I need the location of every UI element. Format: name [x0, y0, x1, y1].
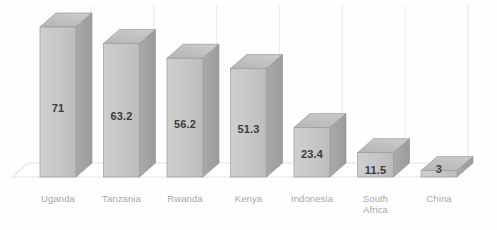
bar-column — [167, 44, 219, 177]
bar-value-label: 71 — [34, 102, 82, 114]
category-label-line: Africa — [344, 204, 408, 215]
category-label-line: Indonesia — [280, 193, 344, 204]
bar-chart-figure: 311.523.451.356.263.271 ChinaSouthAfrica… — [0, 0, 497, 230]
category-label-tanzania: Tanzania — [90, 193, 154, 204]
bar-value-label: 3 — [415, 163, 463, 175]
category-label-line: Kenya — [217, 193, 281, 204]
bar-value-label: 51.3 — [225, 123, 273, 135]
bar-value-label: 23.4 — [288, 148, 336, 160]
category-label-line: China — [407, 193, 471, 204]
bar-column — [231, 55, 283, 177]
category-label-uganda: Uganda — [26, 193, 90, 204]
chart-bars — [40, 13, 473, 177]
category-label-line: Tanzania — [90, 193, 154, 204]
category-label-china: China — [407, 193, 471, 204]
bar-column — [104, 29, 156, 177]
category-label-south-africa: SouthAfrica — [344, 193, 408, 215]
bar-value-label: 56.2 — [161, 118, 209, 130]
category-label-rwanda: Rwanda — [153, 193, 217, 204]
bar-value-label: 63.2 — [98, 110, 146, 122]
bar-value-label: 11.5 — [352, 164, 400, 176]
bar-column — [40, 13, 92, 177]
category-label-kenya: Kenya — [217, 193, 281, 204]
bar-column — [294, 114, 346, 177]
category-label-line: Uganda — [26, 193, 90, 204]
category-label-line: South — [344, 193, 408, 204]
category-label-line: Rwanda — [153, 193, 217, 204]
category-label-indonesia: Indonesia — [280, 193, 344, 204]
